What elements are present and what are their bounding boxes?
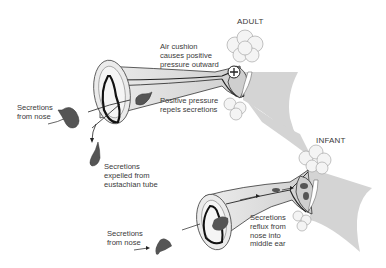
panel-title-infant: INFANT xyxy=(316,136,346,145)
secretion-droplet-nose xyxy=(58,107,79,128)
infant-mastoid-cloud-bottom xyxy=(293,211,311,231)
arrowhead-icon xyxy=(90,138,94,143)
adult-mastoid-cloud-bottom xyxy=(224,98,246,120)
label-secretions-from-nose-adult: Secretions from nose xyxy=(17,104,53,122)
secretion-droplet-nose-infant xyxy=(156,238,173,254)
secretion-droplet-tube-infant xyxy=(272,188,280,192)
panel-title-adult: ADULT xyxy=(237,17,264,26)
secretion-droplet-middle-ear-2 xyxy=(303,192,309,200)
adult-mastoid-cloud-top xyxy=(227,30,263,62)
infant-nose-arrow xyxy=(134,248,148,250)
secretion-droplet-middle-ear xyxy=(300,183,308,189)
secretion-droplet-expelled xyxy=(90,142,100,166)
diagram-canvas: ADULT INFANT Air cushion causes positive… xyxy=(0,0,386,268)
arrowhead-icon xyxy=(146,246,150,250)
label-secretions-from-nose-infant: Secretions from nose xyxy=(107,230,143,248)
infant-middle-ear-membrane xyxy=(309,168,372,252)
label-secretions-reflux: Secretions reflux from nose into middle … xyxy=(250,214,286,249)
label-air-cushion: Air cushion causes positive pressure out… xyxy=(160,43,219,69)
label-secretions-expelled: Secretions expelled from eustachian tube xyxy=(104,163,158,189)
label-positive-pressure: Positive pressure repels secretions xyxy=(160,97,218,115)
